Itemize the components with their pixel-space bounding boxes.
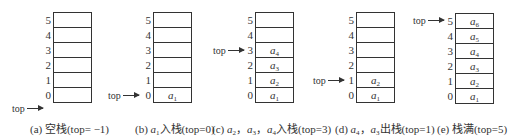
stack-cell-5 [357, 13, 394, 28]
index-label: 2 [346, 58, 354, 73]
index-label: 3 [245, 43, 253, 58]
arrow-right-icon [428, 20, 444, 21]
index-label: 0 [245, 88, 253, 103]
index-label: 3 [445, 44, 453, 59]
stack-cell-1 [154, 73, 191, 88]
stack-cells: a6 a5 a4 a3 a2 a1 [455, 13, 494, 104]
stack-cell-1: a2 [357, 73, 394, 88]
stack-cell-0 [54, 88, 91, 102]
index-label: 4 [43, 28, 51, 43]
stack-cell-3 [54, 43, 91, 58]
top-pointer-a: top [12, 102, 43, 114]
stack-cells: a2 a1 [356, 12, 395, 103]
top-pointer-label: top [12, 103, 25, 114]
index-label: 4 [143, 28, 151, 43]
stack-cell-4 [256, 28, 293, 43]
index-label: 3 [346, 43, 354, 58]
arrow-right-icon [123, 95, 139, 96]
top-pointer-e: top [413, 14, 444, 26]
index-label: 0 [346, 88, 354, 103]
index-label: 0 [143, 88, 151, 103]
top-pointer-label: top [108, 90, 121, 101]
stack-cell-5: a6 [456, 14, 493, 29]
stack-cell-1: a2 [256, 73, 293, 88]
stack-cell-0: a1 [154, 88, 191, 102]
index-label: 1 [445, 74, 453, 89]
caption-b: (b) a1入栈(top=0) [135, 120, 215, 136]
stack-cells: a4 a3 a2 a1 [255, 12, 294, 103]
stack-cell-3: a4 [456, 44, 493, 59]
stack-cell-3: a4 [256, 43, 293, 58]
stack-cell-1: a2 [456, 74, 493, 89]
index-label: 2 [143, 58, 151, 73]
index-label: 1 [43, 73, 51, 88]
stack-cell-1 [54, 73, 91, 88]
stack-cell-0: a1 [357, 88, 394, 102]
stack-cell-5 [256, 13, 293, 28]
stack-cell-5 [54, 13, 91, 28]
stack-cell-2: a3 [256, 58, 293, 73]
index-label: 4 [445, 29, 453, 44]
stack-cell-3 [357, 43, 394, 58]
top-pointer-b: top [108, 89, 139, 101]
stack-cell-4 [54, 28, 91, 43]
index-label: 3 [43, 43, 51, 58]
index-label: 5 [245, 13, 253, 28]
index-label: 0 [445, 89, 453, 104]
stack-cell-3 [154, 43, 191, 58]
index-label: 5 [445, 14, 453, 29]
index-label: 5 [346, 13, 354, 28]
index-label: 5 [43, 13, 51, 28]
index-label: 1 [245, 73, 253, 88]
caption-e: (e) 栈满(top=5) [437, 120, 507, 136]
stack-cell-2: a3 [456, 59, 493, 74]
stack-cell-4 [357, 28, 394, 43]
stack-cell-2 [54, 58, 91, 73]
stack-cell-0: a1 [456, 89, 493, 103]
stack-cells: a1 [153, 12, 192, 103]
index-label: 1 [143, 73, 151, 88]
arrow-right-icon [328, 80, 344, 81]
index-label: 2 [445, 59, 453, 74]
stack-cell-2 [154, 58, 191, 73]
arrow-right-icon [27, 108, 43, 109]
index-label: 3 [143, 43, 151, 58]
index-label: 2 [245, 58, 253, 73]
index-label: 2 [43, 58, 51, 73]
stack-cells [53, 12, 92, 103]
stack-cell-4: a5 [456, 29, 493, 44]
caption-c: (c) a2，a3，a4入栈(top=3) [212, 120, 331, 136]
stack-cell-0: a1 [256, 88, 293, 102]
arrow-right-icon [228, 50, 244, 51]
index-label: 5 [143, 13, 151, 28]
index-label: 0 [43, 88, 51, 103]
index-label: 1 [346, 73, 354, 88]
caption-d: (d) a4，a3出栈(top=1) [335, 120, 435, 136]
stack-cell-2 [357, 58, 394, 73]
top-pointer-d: top [313, 74, 344, 86]
top-pointer-label: top [213, 45, 226, 56]
index-label: 4 [245, 28, 253, 43]
stack-cell-4 [154, 28, 191, 43]
top-pointer-label: top [413, 15, 426, 26]
stack-cell-5 [154, 13, 191, 28]
top-pointer-c: top [213, 44, 244, 56]
top-pointer-label: top [313, 75, 326, 86]
caption-a: (a) 空栈(top= −1) [30, 120, 109, 136]
index-label: 4 [346, 28, 354, 43]
